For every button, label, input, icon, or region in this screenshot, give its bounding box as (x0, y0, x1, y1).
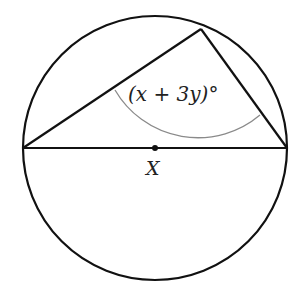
center-point (152, 145, 158, 151)
circle-diagram: (x + 3y)° X (0, 0, 296, 287)
center-label: X (144, 157, 161, 179)
angle-label: (x + 3y)° (128, 82, 218, 106)
